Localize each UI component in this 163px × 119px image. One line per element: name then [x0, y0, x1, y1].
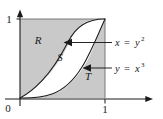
- x-axis-tick-label-1: 1: [102, 103, 108, 115]
- region-diagram-figure: 1 0 1 R S T x = y 2 y = x 3: [0, 0, 163, 119]
- region-label-r: R: [34, 34, 42, 46]
- y-axis-arrowhead-icon: [17, 10, 23, 18]
- x-axis-arrowhead-icon: [145, 96, 153, 102]
- region-label-t: T: [85, 70, 92, 82]
- equation-x-lhs: x: [114, 37, 120, 48]
- equation-x-operator: =: [124, 37, 130, 48]
- equation-label-y-equals-x-cubed: y = x 3: [114, 61, 145, 74]
- equation-label-x-equals-y-squared: x = y 2: [114, 35, 145, 48]
- region-label-s: S: [57, 51, 63, 63]
- equation-x-exponent: 2: [141, 35, 145, 43]
- equation-y-base: x: [134, 63, 140, 74]
- equation-y-exponent: 3: [141, 61, 145, 69]
- equation-y-lhs: y: [114, 63, 120, 74]
- equation-y-operator: =: [124, 63, 130, 74]
- equation-x-base: y: [134, 37, 140, 48]
- y-axis-tick-label-1: 1: [6, 13, 12, 25]
- figure-canvas: 1 0 1 R S T x = y 2 y = x 3: [0, 0, 163, 119]
- origin-label: 0: [5, 102, 11, 114]
